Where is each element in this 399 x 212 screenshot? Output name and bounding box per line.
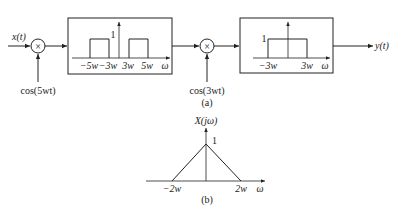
- input-label: x(t): [11, 31, 27, 43]
- output-label: y(t): [374, 40, 390, 52]
- filter1-tick: 3w: [121, 60, 134, 71]
- input-signal: x(t): [8, 31, 30, 46]
- filter1-tick: 5w: [141, 60, 153, 71]
- block-diagram: x(t) × cos(5wt) 1 −5w −3w 3w 5w ω × cos(…: [0, 0, 399, 212]
- filter1-tick: −5w: [80, 60, 99, 71]
- multiplier-1: × cos(5wt): [21, 39, 56, 97]
- filter1-gain: 1: [111, 29, 116, 40]
- filter2-axis-label: ω: [321, 60, 328, 71]
- bandpass-filter: 1 −5w −3w 3w 5w ω: [68, 18, 172, 74]
- caption-b: (b): [201, 194, 213, 206]
- filter1-axis-label: ω: [161, 60, 168, 71]
- multiply-icon: ×: [35, 41, 41, 52]
- input-spectrum-plot: X(jω) 1 −2w 2w ω: [146, 115, 265, 194]
- multiply-icon: ×: [204, 41, 210, 52]
- filter2-gain: 1: [262, 33, 267, 44]
- spectrum-tick: 2w: [235, 183, 247, 194]
- spectrum-y-label: X(jω): [194, 115, 218, 127]
- filter2-tick: −3w: [259, 60, 278, 71]
- peak-label: 1: [212, 135, 217, 146]
- filter2-tick: 3w: [300, 60, 313, 71]
- carrier-1-label: cos(5wt): [21, 85, 56, 97]
- spectrum-axis-label: ω: [256, 183, 263, 194]
- output-signal: y(t): [333, 40, 390, 52]
- multiplier-2: × cos(3wt): [190, 39, 225, 97]
- filter1-tick: −3w: [99, 60, 118, 71]
- caption-a: (a): [201, 97, 212, 109]
- spectrum-tick: −2w: [163, 183, 182, 194]
- lowpass-filter: 1 −3w 3w ω: [240, 18, 333, 73]
- carrier-2-label: cos(3wt): [190, 85, 225, 97]
